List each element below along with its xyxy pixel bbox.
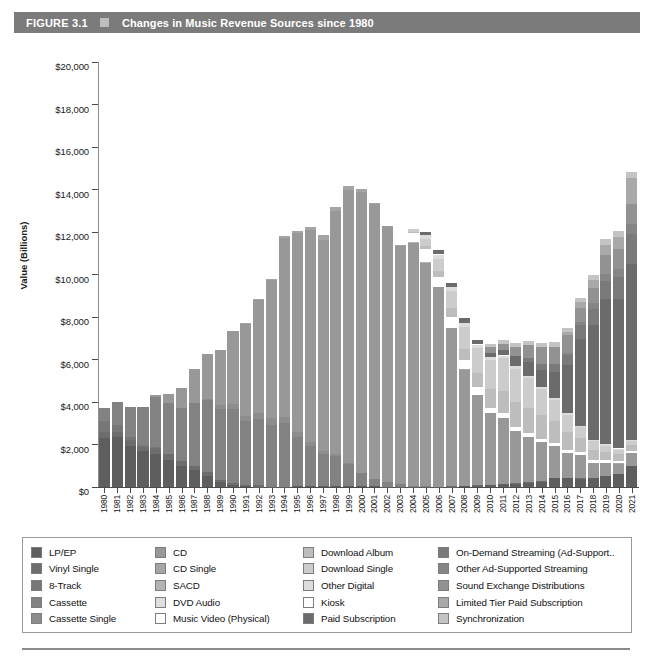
x-axis-label-cell: 2005	[420, 495, 431, 535]
bar-column[interactable]	[433, 62, 444, 487]
bar-column[interactable]	[472, 62, 483, 487]
legend-item[interactable]: Vinyl Single	[31, 561, 155, 578]
bar-segment	[163, 394, 174, 402]
bar-segment	[510, 484, 521, 487]
x-axis-tick-mark	[490, 488, 491, 493]
legend-item-label: Sound Exchange Distributions	[456, 580, 584, 591]
bar-column[interactable]	[600, 62, 611, 487]
x-axis-tick-mark	[580, 488, 581, 493]
bar-column[interactable]	[279, 62, 290, 487]
bar-column[interactable]	[163, 62, 174, 487]
x-axis-label-cell: 2007	[446, 495, 457, 535]
bar-column[interactable]	[227, 62, 238, 487]
bar-column[interactable]	[150, 62, 161, 487]
legend-item[interactable]: Other Ad-Supported Streaming	[438, 561, 627, 578]
x-axis-tick-mark	[426, 488, 427, 493]
legend-item[interactable]: 8-Track	[31, 577, 155, 594]
bar-column[interactable]	[240, 62, 251, 487]
x-axis-tick-mark	[194, 488, 195, 493]
bar-column[interactable]	[215, 62, 226, 487]
bar-segment	[356, 192, 367, 473]
x-axis-label-cell: 2004	[408, 495, 419, 535]
bar-column[interactable]	[549, 62, 560, 487]
bar-column[interactable]	[536, 62, 547, 487]
x-axis-tick-label: 2007	[447, 495, 457, 513]
bar-segment	[305, 230, 316, 441]
legend-item[interactable]: Download Album	[303, 544, 438, 561]
bar-column[interactable]	[395, 62, 406, 487]
bar-column[interactable]	[112, 62, 123, 487]
bar-column[interactable]	[575, 62, 586, 487]
bar-column[interactable]	[189, 62, 200, 487]
legend-item[interactable]: Kiosk	[303, 594, 438, 611]
bar-segment	[433, 259, 444, 271]
y-axis-tick: $8,000	[0, 311, 98, 323]
bar-column[interactable]	[510, 62, 521, 487]
bar-column[interactable]	[382, 62, 393, 487]
legend-item[interactable]: Cassette	[31, 594, 155, 611]
bar-column[interactable]	[562, 62, 573, 487]
bar-column[interactable]	[125, 62, 136, 487]
bar-column[interactable]	[369, 62, 380, 487]
bar-segment	[215, 350, 226, 405]
bar-segment	[523, 483, 534, 487]
bar-segment	[626, 204, 637, 225]
x-axis-tick-mark	[207, 488, 208, 493]
legend-item[interactable]: DVD Audio	[155, 594, 303, 611]
x-axis-tick-mark	[156, 488, 157, 493]
bar-column[interactable]	[292, 62, 303, 487]
legend-item[interactable]: Music Video (Physical)	[155, 610, 303, 627]
bar-column[interactable]	[408, 62, 419, 487]
bar-column[interactable]	[305, 62, 316, 487]
bar-segment	[253, 419, 264, 485]
bar-column[interactable]	[99, 62, 110, 487]
figure-page: FIGURE 3.1 Changes in Music Revenue Sour…	[0, 0, 654, 661]
y-axis-tick-label: $0	[79, 486, 98, 497]
bar-column[interactable]	[343, 62, 354, 487]
x-axis-label-cell: 1985	[163, 495, 174, 535]
legend-item[interactable]: Limited Tier Paid Subscription	[438, 594, 627, 611]
bar-segment	[318, 454, 329, 486]
x-axis-tick-label: 1987	[189, 495, 199, 513]
legend-item[interactable]: SACD	[155, 577, 303, 594]
legend-item[interactable]: Paid Subscription	[303, 610, 438, 627]
legend-item[interactable]: Sound Exchange Distributions	[438, 577, 627, 594]
legend-item[interactable]: CD Single	[155, 561, 303, 578]
bar-column[interactable]	[613, 62, 624, 487]
x-axis-tick-mark	[284, 488, 285, 493]
bar-column[interactable]	[446, 62, 457, 487]
bar-column[interactable]	[318, 62, 329, 487]
legend-swatch-icon	[438, 563, 449, 574]
legend-item[interactable]: Cassette Single	[31, 610, 155, 627]
bar-segment	[510, 431, 521, 483]
bar-segment	[305, 446, 316, 486]
bar-column[interactable]	[626, 62, 637, 487]
bar-column[interactable]	[459, 62, 470, 487]
bar-column[interactable]	[330, 62, 341, 487]
legend-item[interactable]: Other Digital	[303, 577, 438, 594]
x-axis-tick-mark	[567, 488, 568, 493]
bar-column[interactable]	[266, 62, 277, 487]
bar-column[interactable]	[176, 62, 187, 487]
legend-item[interactable]: Synchronization	[438, 610, 627, 627]
bar-segment	[369, 204, 380, 478]
bar-column[interactable]	[356, 62, 367, 487]
legend-swatch-icon	[155, 613, 166, 624]
legend-item-label: Cassette Single	[49, 613, 116, 624]
bar-column[interactable]	[523, 62, 534, 487]
legend-swatch-icon	[155, 563, 166, 574]
legend-item[interactable]: LP/EP	[31, 544, 155, 561]
bar-column[interactable]	[420, 62, 431, 487]
legend-item[interactable]: On-Demand Streaming (Ad-Support..	[438, 544, 627, 561]
bar-column[interactable]	[202, 62, 213, 487]
x-axis-tick-label: 1981	[112, 495, 122, 513]
legend-item[interactable]: CD	[155, 544, 303, 561]
bar-column[interactable]	[485, 62, 496, 487]
bar-column[interactable]	[253, 62, 264, 487]
bar-column[interactable]	[137, 62, 148, 487]
x-axis-tick-mark	[104, 488, 105, 493]
legend-item[interactable]: Download Single	[303, 561, 438, 578]
bar-column[interactable]	[588, 62, 599, 487]
x-axis-tick-mark	[349, 488, 350, 493]
bar-column[interactable]	[498, 62, 509, 487]
